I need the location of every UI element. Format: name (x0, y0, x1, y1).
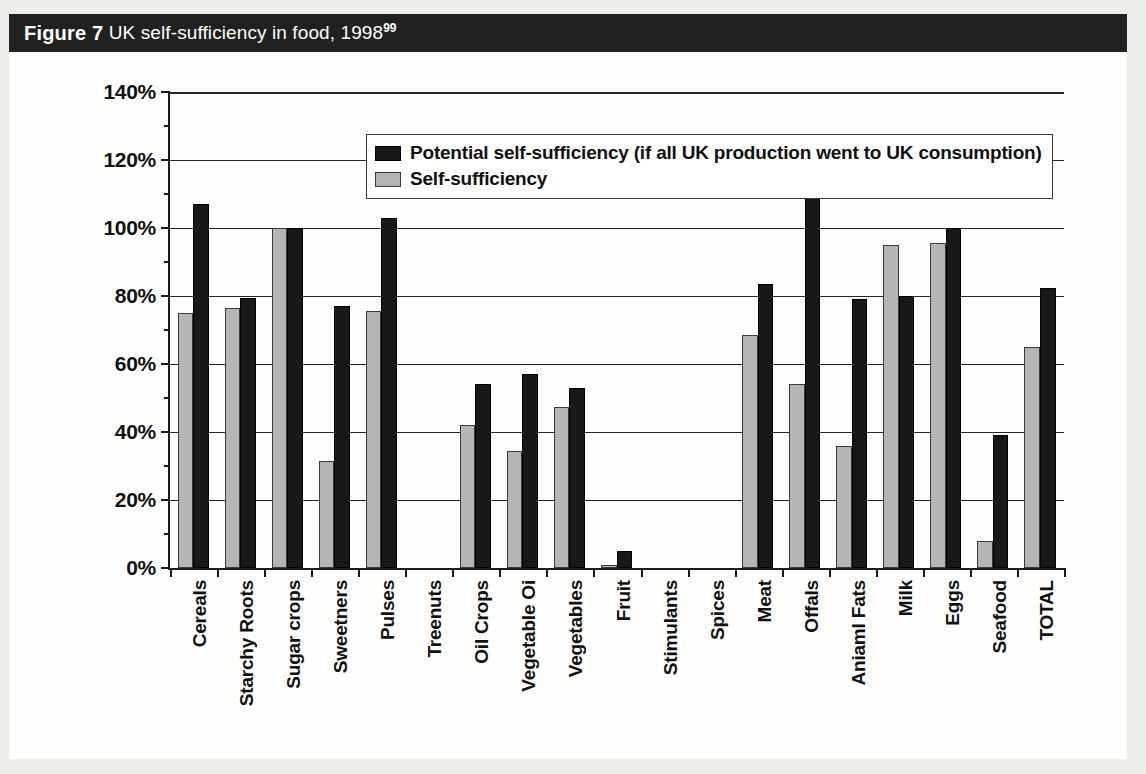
x-axis-category-label: Sweetners (330, 580, 352, 673)
x-axis-tick (593, 568, 595, 577)
x-axis-category-label: Treenuts (424, 580, 446, 658)
x-axis-category-label: TOTAL (1036, 580, 1058, 641)
legend-entry-actual: Self-sufficiency (375, 166, 1042, 192)
page-margin-left (0, 0, 9, 774)
x-axis-tick (1064, 568, 1066, 577)
y-axis-label: 140% (103, 80, 156, 104)
x-axis-tick (405, 568, 407, 577)
y-axis-minor-tick (164, 329, 170, 331)
y-axis-minor-tick (164, 397, 170, 399)
legend-label-actual: Self-sufficiency (410, 168, 547, 190)
y-axis-tick (161, 567, 170, 569)
figure-caption-text: UK self-sufficiency in food, 1998 (103, 22, 383, 44)
x-axis-category-label: Cereals (189, 580, 211, 647)
page-margin-top (0, 0, 1146, 14)
y-axis-label: 100% (103, 216, 156, 240)
x-axis-category-label: Eggs (942, 580, 964, 626)
x-axis-tick (829, 568, 831, 577)
legend-swatch-potential-icon (375, 146, 401, 161)
figure-footnote-marker: 99 (383, 21, 396, 35)
figure-number: Figure 7 (24, 22, 103, 45)
x-axis-tick (217, 568, 219, 577)
y-axis-label: 80% (115, 284, 156, 308)
page-margin-right (1127, 0, 1146, 774)
y-axis-label: 0% (126, 556, 156, 580)
x-axis-labels: CerealsStarchy RootsSugar cropsSweetners… (168, 580, 1062, 759)
y-axis-minor-tick (164, 261, 170, 263)
legend-entry-potential: Potential self-sufficiency (if all UK pr… (375, 140, 1042, 166)
y-axis-tick (161, 91, 170, 93)
x-axis-tick (876, 568, 878, 577)
x-axis-tick (735, 568, 737, 577)
x-axis-tick (782, 568, 784, 577)
x-axis-category-label: Stimulants (660, 580, 682, 675)
y-axis-minor-tick (164, 125, 170, 127)
x-axis-category-label: Spices (707, 580, 729, 640)
y-axis-minor-tick (164, 465, 170, 467)
x-axis-tick (970, 568, 972, 577)
x-axis-category-label: Vegetables (565, 580, 587, 677)
figure-caption-bar: Figure 7 UK self-sufficiency in food, 19… (9, 14, 1127, 52)
y-axis-tick (161, 499, 170, 501)
legend-label-potential: Potential self-sufficiency (if all UK pr… (410, 142, 1042, 164)
x-axis-tick (688, 568, 690, 577)
chart-legend: Potential self-sufficiency (if all UK pr… (366, 134, 1053, 199)
page-margin-bottom (0, 759, 1146, 774)
page-root: Figure 7 UK self-sufficiency in food, 19… (0, 0, 1146, 774)
x-axis-tick (499, 568, 501, 577)
x-axis-category-label: Offals (801, 580, 823, 633)
legend-swatch-actual-icon (375, 172, 401, 187)
x-axis-category-label: Milk (895, 580, 917, 616)
x-axis-category-label: Seafood (989, 580, 1011, 654)
x-axis-category-label: Pulses (377, 580, 399, 640)
chart-canvas: 0%20%40%60%80%100%120%140% Potential sel… (9, 52, 1127, 759)
y-axis-tick (161, 295, 170, 297)
x-axis-tick (358, 568, 360, 577)
x-axis-tick (923, 568, 925, 577)
x-axis-category-label: Vegetable Oi (518, 580, 540, 692)
x-axis-category-label: Starchy Roots (236, 580, 258, 706)
x-axis-tick (641, 568, 643, 577)
y-axis-tick (161, 363, 170, 365)
x-axis-category-label: Sugar crops (283, 580, 305, 689)
x-axis-tick (1017, 568, 1019, 577)
x-axis-category-label: Oil Crops (471, 580, 493, 664)
x-axis-category-label: Fruit (613, 580, 635, 621)
y-axis-minor-tick (164, 193, 170, 195)
x-axis-tick (264, 568, 266, 577)
x-axis-tick (452, 568, 454, 577)
y-axis-label: 60% (115, 352, 156, 376)
x-axis-tick (546, 568, 548, 577)
y-axis-label: 40% (115, 420, 156, 444)
y-axis-label: 20% (115, 488, 156, 512)
y-axis-tick (161, 431, 170, 433)
y-axis-tick (161, 227, 170, 229)
x-axis-tick (311, 568, 313, 577)
y-axis-minor-tick (164, 533, 170, 535)
y-axis-tick (161, 159, 170, 161)
plot-area: 0%20%40%60%80%100%120%140% Potential sel… (168, 92, 1064, 570)
x-axis-category-label: Aniaml Fats (848, 580, 870, 686)
x-axis-category-label: Meat (754, 580, 776, 623)
y-axis-label: 120% (103, 148, 156, 172)
x-axis-tick (170, 568, 172, 577)
